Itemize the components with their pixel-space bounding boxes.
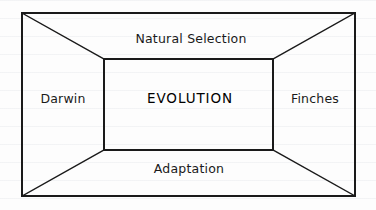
diagonal-bottom-left [22,150,104,196]
label-left-panel: Darwin [40,91,85,106]
diagonal-top-left [22,13,104,59]
diagonal-bottom-right [273,150,355,196]
diagram-canvas: Natural Selection Darwin Finches Adaptat… [0,0,376,210]
diagonal-top-right [273,13,355,59]
center-term: EVOLUTION [147,90,233,106]
label-top-panel: Natural Selection [135,31,246,46]
label-right-panel: Finches [291,91,339,106]
label-bottom-panel: Adaptation [154,161,224,176]
